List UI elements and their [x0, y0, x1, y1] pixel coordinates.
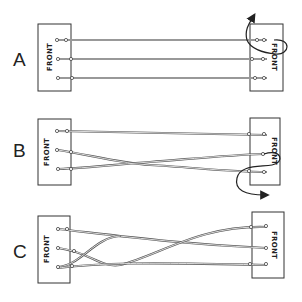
front-label-right-b: FRONT [270, 137, 278, 165]
panel-a: A FRONT FRONT [13, 17, 287, 91]
front-label-left-b: FRONT [43, 138, 51, 166]
panel-c: C FRONT FRONT [13, 212, 284, 283]
wires-c [58, 227, 266, 268]
wire-flip-diagram: A FRONT FRONT B FRONT FRONT [0, 0, 302, 302]
front-label-left-a: FRONT [46, 43, 54, 71]
front-label-right-a: FRONT [270, 43, 278, 71]
left-board-a [38, 24, 71, 91]
wires-b [58, 131, 266, 172]
front-label-left-c: FRONT [43, 235, 51, 263]
panel-label-a: A [13, 49, 26, 70]
panel-label-b: B [13, 140, 26, 161]
panel-label-c: C [13, 241, 27, 262]
panel-b: B FRONT FRONT [13, 118, 280, 195]
wires-a [58, 40, 266, 78]
right-board-c [252, 212, 284, 278]
front-label-right-c: FRONT [270, 231, 278, 259]
